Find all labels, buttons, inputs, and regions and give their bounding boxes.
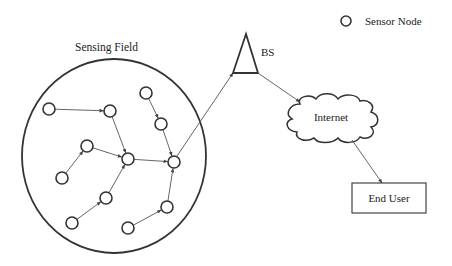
end-user-box: End User (352, 183, 426, 213)
sensor-node-B (104, 105, 116, 117)
edge-bs-to-internet (258, 73, 300, 102)
sensor-node-A (43, 103, 55, 115)
internet-cloud: Internet (287, 94, 378, 143)
base-station-icon (233, 34, 258, 73)
base-station: BS (233, 34, 274, 73)
base-station-label: BS (261, 46, 274, 58)
sensing-field: Sensing Field (22, 41, 206, 253)
sensor-node-H (56, 172, 68, 184)
edge-L-to-K (133, 210, 161, 225)
edge-internet-to-end-user (352, 140, 382, 183)
edge-H-to-E (66, 151, 83, 173)
edge-K-to-G (168, 168, 173, 201)
sensor-node-J (66, 217, 78, 229)
sensor-node-I (100, 192, 112, 204)
edge-I-to-F (109, 165, 125, 193)
edge-J-to-I (77, 202, 101, 220)
sensor-edges (55, 98, 173, 225)
sensor-node-L (122, 222, 134, 234)
edge-E-to-F (93, 148, 122, 157)
edge-D-to-G (163, 130, 172, 156)
sensing-field-label: Sensing Field (75, 41, 138, 54)
edge-A-to-B (55, 109, 104, 111)
sensor-node-F (122, 153, 134, 165)
legend-label: Sensor Node (365, 15, 422, 27)
internet-label: Internet (314, 111, 348, 123)
sensor-node-E (81, 140, 93, 152)
edge-B-to-F (112, 117, 126, 153)
edge-C-to-D (149, 98, 159, 118)
sensing-field-boundary (22, 59, 206, 253)
legend-sensor-node-icon (341, 16, 351, 26)
legend: Sensor Node (341, 15, 422, 27)
end-user-label: End User (368, 192, 410, 204)
edge-F-to-G (134, 159, 168, 161)
sensor-node-D (155, 118, 167, 130)
sensor-node-G (168, 156, 180, 168)
wsn-diagram: Sensor Node Sensing Field BS Internet En… (0, 0, 452, 266)
sensor-node-C (140, 87, 152, 99)
sensor-node-K (161, 201, 173, 213)
